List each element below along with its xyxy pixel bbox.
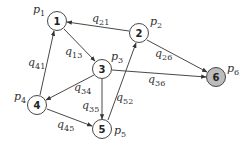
markov-graph-diagram: q21 q13 q41 q26 q36 q34 q35 q52 q45 1 2 … (0, 0, 248, 152)
edge-label-q36: q36 (148, 73, 165, 88)
node-1: 1 (48, 12, 67, 31)
edge-label-q13: q13 (65, 45, 82, 60)
node-2: 2 (130, 24, 149, 43)
edge-label-q45: q45 (57, 118, 74, 133)
edge-label-q21: q21 (92, 12, 109, 27)
prob-label-p4: p4 (14, 90, 26, 105)
svg-text:3: 3 (99, 64, 106, 75)
node-5: 5 (93, 120, 112, 139)
prob-label-p3: p3 (111, 50, 123, 65)
node-3: 3 (93, 60, 112, 79)
svg-text:4: 4 (34, 100, 41, 111)
svg-text:1: 1 (54, 16, 61, 27)
node-4: 4 (28, 96, 47, 115)
svg-text:2: 2 (136, 28, 143, 39)
prob-label-p6: p6 (227, 62, 239, 77)
graph-canvas: q21 q13 q41 q26 q36 q34 q35 q52 q45 1 2 … (0, 0, 248, 152)
edge-label-q41: q41 (28, 56, 45, 71)
svg-text:6: 6 (213, 72, 220, 83)
prob-label-p1: p1 (33, 3, 45, 18)
prob-label-p2: p2 (150, 15, 162, 30)
edge-label-q34: q34 (74, 81, 91, 96)
prob-label-p5: p5 (114, 124, 126, 139)
edge-label-q52: q52 (116, 91, 133, 106)
edge-label-q35: q35 (82, 99, 99, 114)
edges (40, 22, 207, 126)
svg-text:5: 5 (99, 124, 106, 135)
node-6-highlighted: 6 (207, 68, 226, 87)
